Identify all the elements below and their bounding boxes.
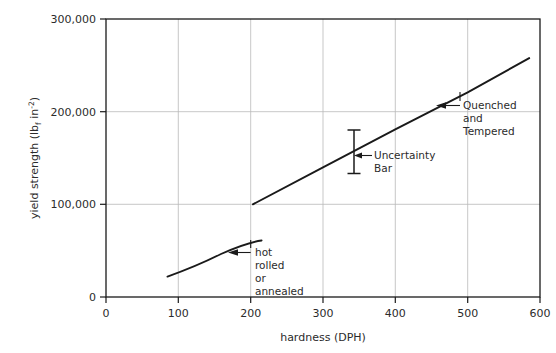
annotation-hr-line4: annealed [255,285,304,297]
ytick-label-300000: 300,000 [51,13,97,26]
ytick-label-100000: 100,000 [51,198,97,211]
xtick-label-100: 100 [168,307,189,320]
annotation-hr-line2: rolled [255,259,284,271]
uncertainty-bar-label-line1: Uncertainty [374,149,435,161]
xtick-label-500: 500 [457,307,478,320]
annotation-quenched-and-tempered-leader [436,92,460,109]
annotation-qt-line2: and [463,112,483,124]
series-hot-rolled-or-annealed [168,241,262,277]
x-axis-ticks [106,297,540,303]
y-axis-title-close: ) [28,97,41,101]
y-axis-ticks [100,19,106,297]
ytick-label-200000: 200,000 [51,106,97,119]
y-axis-title-main: yield strength (lb [28,125,41,219]
chart-figure: 300,000 200,000 100,000 0 0 100 200 300 … [0,0,556,353]
chart-svg: 300,000 200,000 100,000 0 0 100 200 300 … [0,0,556,353]
xtick-label-0: 0 [103,307,110,320]
uncertainty-bar-label-line2: Bar [374,162,393,174]
uncertainty-bar-arrowhead [354,153,362,159]
uncertainty-bar-leader [354,153,372,159]
y-axis-title-mid: in [28,109,41,123]
annotation-qt-line3: Tempered [462,125,515,137]
xtick-label-400: 400 [385,307,406,320]
xtick-label-200: 200 [240,307,261,320]
xtick-label-600: 600 [530,307,551,320]
grid-lines [106,19,540,297]
annotation-hot-rolled-leader [228,240,251,256]
annotation-hr-line1: hot [255,246,272,258]
xtick-label-300: 300 [313,307,334,320]
annotation-hr-line3: or [255,272,266,284]
uncertainty-bar [348,130,361,174]
annotation-qt-line1: Quenched [463,99,517,111]
ytick-label-0: 0 [89,291,96,304]
svg-text:yield strength (lbf in-2): yield strength (lbf in-2) [27,97,43,219]
x-axis-title: hardness (DPH) [280,331,366,344]
y-axis-title: yield strength (lbf in-2) [27,97,43,219]
